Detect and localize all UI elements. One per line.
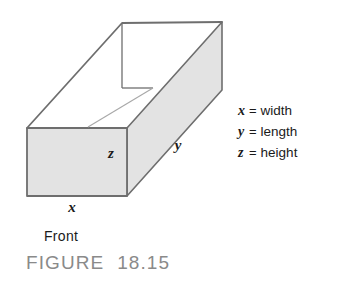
legend-row: x = width <box>238 103 338 124</box>
figure-caption: FIGURE 18.15 <box>26 252 170 274</box>
front-face-label: Front <box>44 228 78 244</box>
legend-equals-sign: = <box>249 124 257 139</box>
figure-container: x y z x = width y = length z = height Fr… <box>0 0 338 294</box>
legend-symbol-x: x <box>238 103 249 119</box>
legend-row: y = length <box>238 124 338 145</box>
legend-row: z = height <box>238 145 338 166</box>
legend-name-width: width <box>261 103 293 118</box>
legend-equals-sign: = <box>249 103 257 118</box>
box-front-face <box>27 128 127 196</box>
legend: x = width y = length z = height <box>238 103 338 166</box>
dimension-label-x: x <box>67 199 76 215</box>
legend-name-length: length <box>261 124 298 139</box>
dimension-label-z: z <box>107 145 114 161</box>
legend-name-height: height <box>261 145 298 160</box>
legend-symbol-y: y <box>238 124 249 140</box>
legend-symbol-z: z <box>238 145 249 161</box>
legend-equals-sign: = <box>249 145 257 160</box>
dimension-label-y: y <box>173 137 182 153</box>
box-right-face <box>127 22 222 196</box>
